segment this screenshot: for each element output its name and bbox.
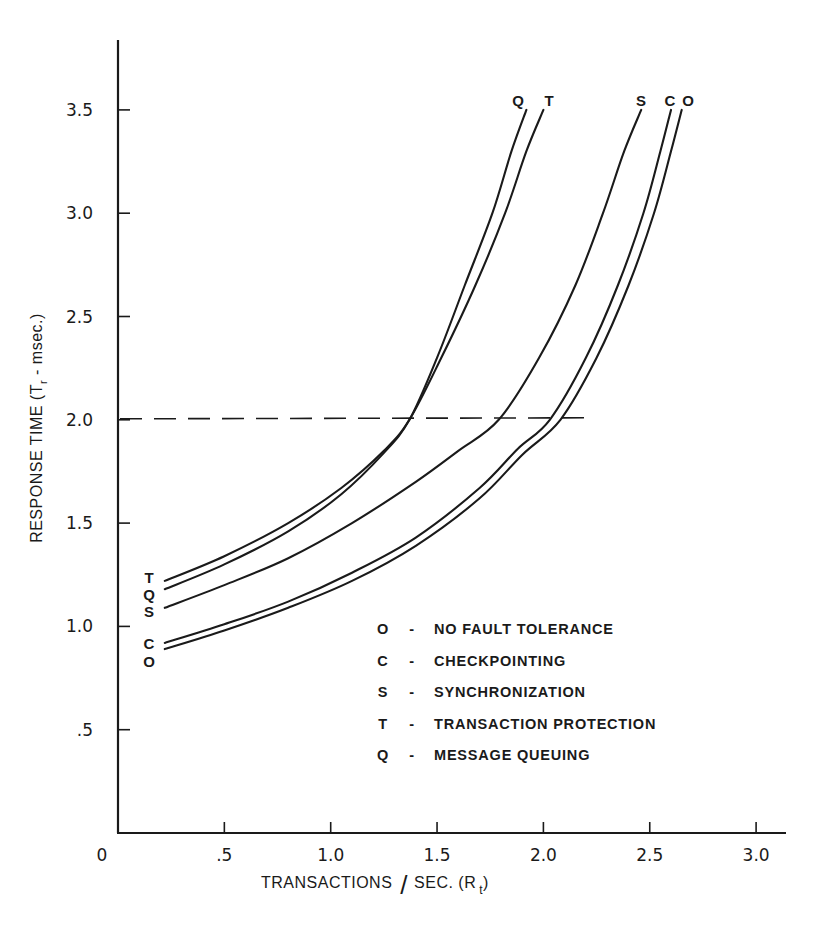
x-tick-label: .5 <box>216 845 232 865</box>
x-tick-label: 2.5 <box>636 845 663 865</box>
x-tick-label: 2.0 <box>530 845 557 865</box>
reference-line-2ms <box>120 418 590 419</box>
legend-dash: - <box>409 653 415 669</box>
legend-key: Q <box>377 747 389 763</box>
curve-t <box>165 110 544 581</box>
legend-entry-c: C-CHECKPOINTING <box>377 653 566 669</box>
curve-end-label-o: O <box>682 92 694 109</box>
legend-key: C <box>377 653 388 669</box>
legend-dash: - <box>409 684 415 700</box>
curve-start-label-t: T <box>144 569 153 586</box>
legend-label: SYNCHRONIZATION <box>434 684 586 700</box>
legend-key: T <box>378 716 388 732</box>
y-tick-label: 3.0 <box>66 203 93 223</box>
curve-end-label-q: Q <box>512 92 524 109</box>
curve-s <box>165 110 641 608</box>
x-tick-label: 1.0 <box>317 845 344 865</box>
curve-c <box>165 110 671 643</box>
curve-end-label-s: S <box>636 92 646 109</box>
x-tick-label: 1.5 <box>424 845 451 865</box>
series-curves <box>165 110 682 649</box>
legend-entry-t: T-TRANSACTION PROTECTION <box>378 716 656 732</box>
legend-dash: - <box>409 621 415 637</box>
curve-q <box>165 110 527 589</box>
axes <box>117 40 786 833</box>
curve-start-label-o: O <box>143 653 155 670</box>
curve-start-label-c: C <box>144 635 155 652</box>
x-tick-label: 0 <box>97 845 108 865</box>
legend-key: O <box>377 621 389 637</box>
legend-dash: - <box>409 747 415 763</box>
response-time-chart: 0.51.01.52.02.53.0 .51.01.52.02.53.03.5 … <box>0 0 834 933</box>
legend-entry-o: O-NO FAULT TOLERANCE <box>377 621 614 637</box>
curve-start-labels: TQSCO <box>143 569 155 670</box>
legend-entry-s: S-SYNCHRONIZATION <box>378 684 586 700</box>
legend: O-NO FAULT TOLERANCEC-CHECKPOINTINGS-SYN… <box>377 621 656 763</box>
y-tick-label: 1.5 <box>66 513 93 533</box>
curve-end-label-t: T <box>544 92 553 109</box>
y-tick-label: 1.0 <box>66 616 93 636</box>
x-axis-ticks: 0.51.01.52.02.53.0 <box>97 822 770 865</box>
legend-dash: - <box>409 716 415 732</box>
y-axis-ticks: .51.01.52.02.53.03.5 <box>66 100 130 740</box>
legend-label: CHECKPOINTING <box>434 653 566 669</box>
curve-start-label-s: S <box>144 603 154 620</box>
y-tick-label: 2.5 <box>66 307 93 327</box>
curve-start-label-q: Q <box>143 586 155 603</box>
legend-key: S <box>378 684 388 700</box>
curve-end-labels: QTSCO <box>512 92 694 109</box>
y-axis-title: RESPONSE TIME (Tr - msec.) <box>28 313 49 543</box>
legend-label: NO FAULT TOLERANCE <box>434 621 614 637</box>
x-axis-title: TRANSACTIONS/SEC. (Rt) <box>261 870 489 900</box>
y-tick-label: 2.0 <box>66 410 93 430</box>
legend-entry-q: Q-MESSAGE QUEUING <box>377 747 590 763</box>
x-tick-label: 3.0 <box>743 845 770 865</box>
legend-label: TRANSACTION PROTECTION <box>434 716 656 732</box>
y-tick-label: 3.5 <box>66 100 93 120</box>
legend-label: MESSAGE QUEUING <box>434 747 590 763</box>
y-tick-label: .5 <box>77 720 93 740</box>
curve-o <box>165 110 682 649</box>
curve-end-label-c: C <box>665 92 676 109</box>
